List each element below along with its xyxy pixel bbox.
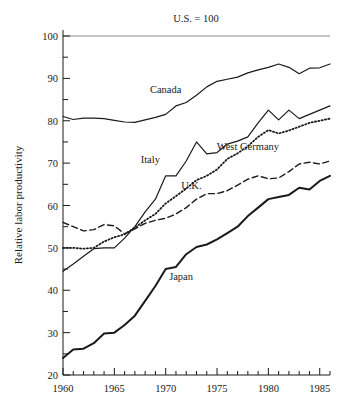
y-axis-title: Relative labor productivity [12,145,24,264]
x-tick-label: 1960 [53,383,74,394]
y-tick-label: 20 [48,370,59,381]
relative-labor-productivity-line-chart: U.S. = 100 2030405060708090100 196019651… [0,0,343,415]
x-tick-label: 1965 [104,383,125,394]
series-label-japan: Japan [169,271,194,282]
x-tick-label: 1985 [309,383,330,394]
x-tick-label: 1970 [155,383,176,394]
y-tick-label: 100 [42,31,58,42]
series-label-west-germany: West Germany [217,141,280,152]
series-label-canada: Canada [150,84,182,95]
y-tick-label: 90 [48,73,59,84]
y-tick-label: 40 [48,285,59,296]
x-tick-label: 1980 [258,383,279,394]
y-tick-label: 30 [48,328,59,339]
y-tick-label: 50 [48,243,59,254]
y-tick-label: 70 [48,158,59,169]
us-equals-100-annotation: U.S. = 100 [173,13,219,24]
y-tick-label: 60 [48,201,59,212]
x-tick-label: 1975 [207,383,228,394]
chart-container: U.S. = 100 2030405060708090100 196019651… [0,0,343,415]
series-label-u-k: U.K. [181,180,201,191]
y-tick-label: 80 [48,116,59,127]
series-label-italy: Italy [141,154,161,165]
